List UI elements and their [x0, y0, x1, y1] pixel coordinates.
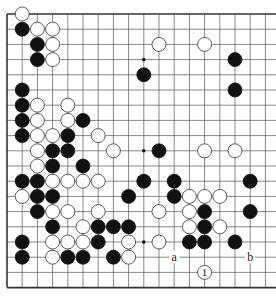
white-stone-circle — [91, 205, 105, 219]
black-stone — [106, 250, 120, 264]
white-stone-circle — [46, 37, 60, 51]
black-stone-circle — [152, 144, 166, 158]
white-stone-circle — [213, 189, 227, 203]
black-stone-circle — [243, 174, 257, 188]
black-stone — [137, 68, 151, 82]
black-stone-circle — [15, 174, 29, 188]
white-stone — [198, 189, 212, 203]
black-stone — [167, 189, 181, 203]
black-stone — [15, 235, 29, 249]
black-stone-circle — [198, 220, 212, 234]
white-stone — [30, 98, 44, 112]
black-stone — [46, 220, 60, 234]
black-stone-circle — [46, 144, 60, 158]
black-stone-circle — [30, 53, 44, 67]
white-stone-circle — [15, 7, 29, 21]
white-stone-circle — [91, 129, 105, 143]
white-stone-circle — [198, 189, 212, 203]
white-stone — [30, 129, 44, 143]
black-stone-circle — [15, 22, 29, 36]
white-stone-circle — [152, 205, 166, 219]
black-stone — [46, 144, 60, 158]
black-stone-circle — [122, 220, 136, 234]
white-stone-circle — [46, 129, 60, 143]
black-stone-circle — [91, 235, 105, 249]
black-stone — [228, 235, 242, 249]
black-stone — [106, 220, 120, 234]
black-stone-circle — [106, 220, 120, 234]
white-stone-circle — [30, 113, 44, 127]
white-stone-circle — [61, 113, 75, 127]
black-stone — [61, 250, 75, 264]
white-stone — [152, 37, 166, 51]
black-stone — [30, 205, 44, 219]
point-label-a: a — [172, 250, 178, 264]
white-stone — [213, 189, 227, 203]
black-stone — [46, 159, 60, 173]
white-stone-circle — [30, 98, 44, 112]
point-label-b: b — [247, 250, 253, 264]
star-point — [142, 149, 146, 153]
black-stone — [61, 129, 75, 143]
black-stone — [228, 83, 242, 97]
black-stone-circle — [198, 205, 212, 219]
white-stone-circle — [76, 235, 90, 249]
white-stone-circle — [46, 53, 60, 67]
black-stone — [15, 250, 29, 264]
black-stone-circle — [15, 129, 29, 143]
go-board-diagram: ab 1 — [0, 0, 276, 301]
white-stone-circle — [46, 174, 60, 188]
black-stone-circle — [15, 113, 29, 127]
black-stone — [243, 174, 257, 188]
black-stone — [243, 205, 257, 219]
black-stone — [46, 189, 60, 203]
white-stone-circle — [61, 98, 75, 112]
star-point — [142, 58, 146, 62]
black-stone — [198, 235, 212, 249]
white-stone — [122, 235, 136, 249]
black-stone — [198, 205, 212, 219]
black-stone — [15, 129, 29, 143]
black-stone-circle — [243, 205, 257, 219]
white-stone — [76, 220, 90, 234]
black-stone-circle — [198, 235, 212, 249]
black-stone — [152, 144, 166, 158]
black-stone — [91, 220, 105, 234]
white-stone — [46, 235, 60, 249]
white-stone-circle — [76, 220, 90, 234]
black-stone-circle — [15, 235, 29, 249]
white-stone — [61, 98, 75, 112]
white-stone — [30, 22, 44, 36]
white-stone-circle — [122, 235, 136, 249]
white-stone-circle — [61, 174, 75, 188]
white-stone-circle — [76, 174, 90, 188]
white-stone — [122, 250, 136, 264]
black-stone-circle — [91, 220, 105, 234]
white-stone — [198, 37, 212, 51]
black-stone — [122, 189, 136, 203]
white-stone — [182, 205, 196, 219]
black-stone-circle — [137, 68, 151, 82]
white-stone — [182, 220, 196, 234]
white-stone — [15, 189, 29, 203]
black-stone-circle — [167, 189, 181, 203]
white-stone — [30, 113, 44, 127]
black-stone-circle — [228, 235, 242, 249]
white-stone-circle — [46, 235, 60, 249]
black-stone-circle — [76, 113, 90, 127]
white-stone-circle — [61, 205, 75, 219]
white-stone-circle — [46, 22, 60, 36]
white-stone — [46, 53, 60, 67]
move-number: 1 — [202, 266, 208, 278]
white-stone — [15, 7, 29, 21]
white-stone-circle — [46, 250, 60, 264]
black-stone — [15, 98, 29, 112]
white-stone-circle — [30, 144, 44, 158]
white-stone — [61, 205, 75, 219]
star-point — [142, 240, 146, 244]
black-stone — [30, 53, 44, 67]
white-stone-circle — [152, 37, 166, 51]
black-stone — [30, 37, 44, 51]
black-stone — [182, 235, 196, 249]
white-stone-circle — [182, 189, 196, 203]
